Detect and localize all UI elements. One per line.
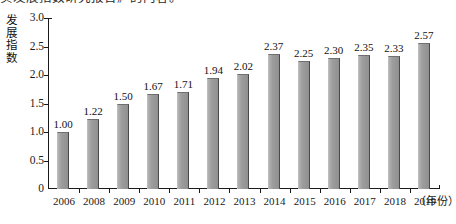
bar (207, 78, 219, 189)
x-axis-tick-label: 2019 (405, 195, 445, 208)
y-axis-tick-mark (44, 104, 49, 105)
bar-group: 2.37 (260, 18, 290, 189)
bar-group: 1.22 (79, 18, 109, 189)
bar (418, 43, 430, 189)
x-axis-tick-mark (169, 189, 170, 193)
bar-group: 2.33 (380, 18, 410, 189)
bar (237, 74, 249, 189)
y-axis-title-char: 数 (3, 52, 20, 65)
y-axis-title-char: 发 (3, 14, 20, 27)
y-axis-tick-mark (44, 18, 49, 19)
bar (328, 58, 340, 189)
x-axis-tick-mark (229, 189, 230, 193)
y-axis-tick-label: 0.5 (30, 155, 44, 167)
y-axis-tick-label: 2.5 (30, 41, 44, 53)
x-axis-tick-mark (320, 189, 321, 193)
y-axis-tick-label: 1.5 (30, 98, 44, 110)
bar (117, 104, 129, 190)
y-axis-tick-mark (44, 161, 49, 162)
bar-group: 1.71 (169, 18, 199, 189)
x-axis-tick-labels: （年份） 20062008200920102011201220132014201… (49, 195, 450, 215)
bar (177, 92, 189, 189)
bar (147, 94, 159, 189)
truncated-body-text-line: 实发展指数研究报告》的内容。 (0, 0, 182, 7)
x-axis-tick-mark (290, 189, 291, 193)
y-axis-tick-mark (44, 47, 49, 48)
bar (298, 61, 310, 189)
truncated-body-text: 实发展指数研究报告》的内容。 (0, 0, 450, 9)
bar (268, 54, 280, 189)
y-axis-title: 发 展 指 数 (3, 14, 20, 64)
bar-value-label: 2.57 (401, 30, 447, 41)
x-axis-tick-mark (410, 189, 411, 193)
bar (87, 119, 99, 189)
y-axis-tick-label: 0 (38, 183, 44, 195)
x-axis-tick-mark (350, 189, 351, 193)
y-axis-tick-labels: 00.51.01.52.02.53.0 (20, 9, 46, 224)
bar (57, 132, 69, 189)
y-axis-tick-mark (44, 132, 49, 133)
x-axis-tick-mark (139, 189, 140, 193)
x-axis-tick-mark (79, 189, 80, 193)
y-axis-tick-label: 3.0 (30, 12, 44, 24)
bar (388, 56, 400, 189)
bar-group: 1.67 (139, 18, 169, 189)
bar-group: 1.50 (109, 18, 139, 189)
plot-area: 1.001.221.501.671.711.942.022.372.252.30… (49, 18, 440, 189)
bar-group: 2.57 (410, 18, 440, 189)
y-axis-tick-mark (44, 75, 49, 76)
bar-group: 1.00 (49, 18, 79, 189)
x-axis-tick-mark (199, 189, 200, 193)
x-axis-tick-mark (109, 189, 110, 193)
bar-group: 2.25 (290, 18, 320, 189)
bar-group: 1.94 (199, 18, 229, 189)
bar-chart: 发 展 指 数 00.51.01.52.02.53.0 1.001.221.50… (0, 9, 450, 224)
x-axis-tick-mark (380, 189, 381, 193)
y-axis-tick-label: 2.0 (30, 69, 44, 81)
y-axis-title-char: 指 (3, 39, 20, 52)
y-axis-title-char: 展 (3, 27, 20, 40)
bar (358, 55, 370, 189)
x-axis-tick-mark (260, 189, 261, 193)
